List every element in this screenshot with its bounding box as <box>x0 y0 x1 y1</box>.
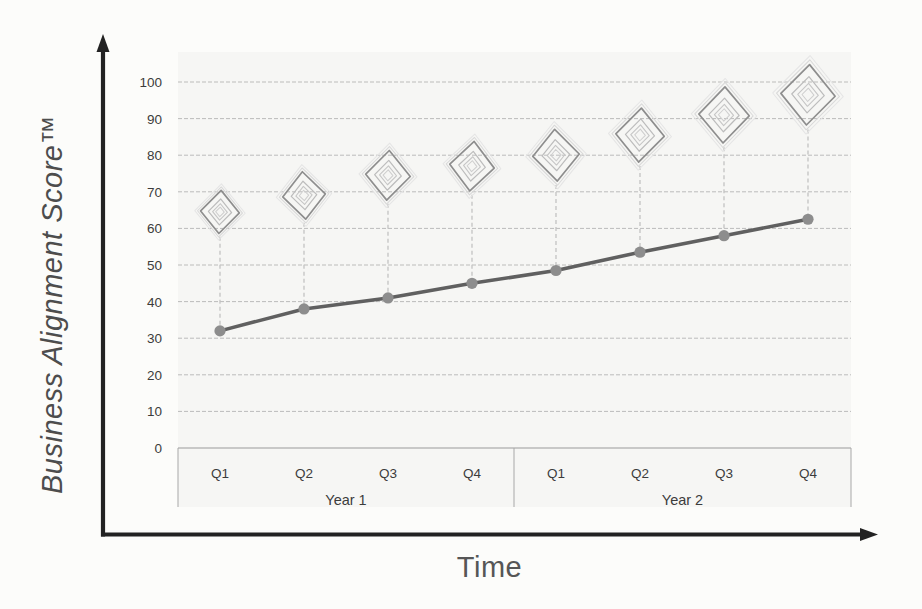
x-tick-label-4: Q1 <box>547 466 565 481</box>
y-tick-label-60: 60 <box>147 221 162 236</box>
data-point-marker <box>382 292 393 303</box>
y-tick-label-80: 80 <box>147 148 162 163</box>
x-tick-label-0: Q1 <box>211 466 229 481</box>
x-tick-label-6: Q3 <box>715 466 733 481</box>
x-tick-label-5: Q2 <box>631 466 649 481</box>
y-tick-label-90: 90 <box>147 112 162 127</box>
x-tick-label-2: Q3 <box>379 466 397 481</box>
y-tick-label-30: 30 <box>147 331 162 346</box>
y-tick-label-50: 50 <box>147 258 162 273</box>
data-point-marker <box>298 303 309 314</box>
y-tick-label-0: 0 <box>154 441 162 456</box>
year-group-label-0: Year 1 <box>325 492 366 508</box>
data-point-marker <box>550 265 561 276</box>
x-tick-label-3: Q4 <box>463 466 482 481</box>
y-tick-label-40: 40 <box>147 295 162 310</box>
y-tick-label-100: 100 <box>139 75 162 90</box>
chart-canvas: 0102030405060708090100Q1Q2Q3Q4Q1Q2Q3Q4Ye… <box>0 0 922 609</box>
year-group-label-1: Year 2 <box>662 492 703 508</box>
data-point-marker <box>634 247 645 258</box>
x-axis-arrow-icon <box>860 528 878 541</box>
data-point-marker <box>802 214 813 225</box>
data-point-marker <box>214 325 225 336</box>
data-point-marker <box>466 278 477 289</box>
x-tick-label-1: Q2 <box>295 466 313 481</box>
data-point-marker <box>718 230 729 241</box>
plot-area <box>178 52 851 507</box>
y-tick-label-70: 70 <box>147 185 162 200</box>
y-tick-label-20: 20 <box>147 368 162 383</box>
y-axis-arrow-icon <box>97 34 110 52</box>
y-tick-label-10: 10 <box>147 404 162 419</box>
x-tick-label-7: Q4 <box>799 466 818 481</box>
x-axis-title: Time <box>103 551 876 584</box>
chart-figure: Business Alignment Score™ 01020304050607… <box>0 0 922 609</box>
